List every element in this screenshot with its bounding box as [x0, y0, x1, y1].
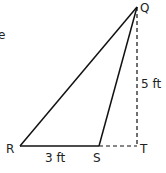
triangle-diagram: e Q R S T 3 ft 5 ft: [0, 0, 166, 173]
label-S: S: [93, 151, 101, 165]
label-T: T: [139, 142, 148, 156]
label-Q: Q: [140, 1, 149, 15]
side-SQ: [99, 7, 137, 146]
label-R: R: [6, 142, 14, 156]
side-RQ: [20, 7, 137, 146]
label-RS-length: 3 ft: [45, 151, 65, 165]
partial-text: e: [0, 28, 5, 42]
label-QT-length: 5 ft: [141, 77, 161, 91]
